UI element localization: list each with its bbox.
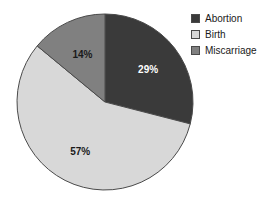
legend-swatch-birth xyxy=(191,30,200,39)
pie-slice-value-birth: 57% xyxy=(70,146,90,157)
legend-swatch-abortion xyxy=(191,14,200,23)
pie-slice-value-abortion: 29% xyxy=(138,64,158,75)
legend-item-miscarriage[interactable]: Miscarriage xyxy=(191,43,275,58)
pie-chart-figure: 29%57%14% Abortion Birth Miscarriage xyxy=(0,0,278,202)
legend-label-birth: Birth xyxy=(205,29,226,40)
legend-label-abortion: Abortion xyxy=(205,13,242,24)
legend-item-abortion[interactable]: Abortion xyxy=(191,11,275,26)
legend-swatch-miscarriage xyxy=(191,46,200,55)
pie-slice-value-miscarriage: 14% xyxy=(72,49,92,60)
chart-legend: Abortion Birth Miscarriage xyxy=(191,11,275,59)
legend-item-birth[interactable]: Birth xyxy=(191,27,275,42)
legend-label-miscarriage: Miscarriage xyxy=(205,45,257,56)
pie-slices-group xyxy=(17,14,193,190)
